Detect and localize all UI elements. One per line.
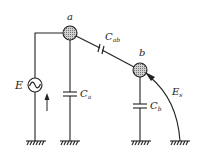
- capacitor-cab-label: Cab: [105, 31, 120, 43]
- node-a-label: a: [67, 11, 73, 22]
- field-es-label: Es: [171, 86, 182, 98]
- capacitor-cb: Cb: [133, 77, 162, 141]
- node-a: a: [63, 11, 77, 40]
- capacitor-cb-label: Cb: [150, 100, 162, 112]
- circuit-diagram: E a Ca Cab b: [0, 0, 201, 157]
- ground-es: [170, 141, 190, 145]
- ground-source: [26, 141, 46, 145]
- node-b: b: [133, 47, 147, 77]
- node-b-label: b: [139, 47, 145, 58]
- source-label: E: [14, 79, 23, 92]
- wire-source-to-a: [35, 33, 63, 78]
- capacitor-ca-label: Ca: [80, 88, 92, 100]
- capacitor-cab: Cab: [76, 31, 134, 67]
- capacitor-ca: Ca: [63, 40, 92, 141]
- ground-ca: [60, 141, 80, 145]
- ground-cb: [131, 141, 151, 145]
- ac-source: E: [14, 78, 50, 141]
